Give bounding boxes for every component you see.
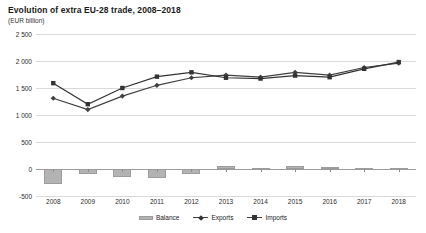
y-axis-labels: -50005001 0001 5002 0002 500	[0, 34, 32, 196]
imports-marker	[397, 60, 401, 64]
exports-marker	[154, 83, 159, 88]
bar-swatch-icon	[139, 216, 153, 220]
x-axis-tick-label: 2016	[322, 198, 336, 205]
x-axis-tick-label: 2018	[391, 198, 405, 205]
x-axis-tick-label: 2013	[219, 198, 233, 205]
imports-marker	[189, 70, 193, 74]
imports-marker	[293, 73, 297, 77]
legend-item-balance[interactable]: Balance	[139, 214, 180, 221]
legend-item-imports[interactable]: Imports	[247, 214, 287, 221]
imports-marker	[258, 76, 262, 80]
line-diamond-marker-icon	[193, 215, 208, 221]
x-axis-tick-label: 2017	[357, 198, 371, 205]
x-axis-labels: 2008200920102011201220132014201520162017…	[36, 198, 416, 212]
exports-marker	[51, 96, 56, 101]
imports-marker	[120, 86, 124, 90]
x-axis-tick	[399, 169, 400, 172]
imports-marker	[86, 102, 90, 106]
y-axis-tick-label: 1 000	[16, 112, 32, 119]
x-axis-tick	[88, 169, 89, 172]
exports-marker	[120, 94, 125, 99]
x-axis-tick-label: 2012	[184, 198, 198, 205]
y-axis-tick-label: 500	[21, 139, 32, 146]
x-axis-tick-label: 2011	[150, 198, 164, 205]
imports-marker	[224, 76, 228, 80]
imports-marker	[155, 74, 159, 78]
legend-label-balance: Balance	[156, 214, 180, 221]
x-axis-tick-label: 2009	[81, 198, 95, 205]
x-axis-tick	[157, 169, 158, 172]
legend-item-exports[interactable]: Exports	[193, 214, 233, 221]
legend-label-imports: Imports	[265, 214, 287, 221]
chart-container: Evolution of extra EU-28 trade, 2008–201…	[0, 0, 426, 233]
plot-area	[36, 34, 416, 196]
imports-marker	[51, 81, 55, 85]
x-axis-tick	[53, 169, 54, 172]
x-axis-tick	[295, 169, 296, 172]
line-square-marker-icon	[247, 215, 262, 221]
x-axis-tick	[330, 169, 331, 172]
chart-legend: Balance Exports Imports	[0, 214, 426, 221]
chart-subtitle-unit: (EUR billion)	[8, 17, 44, 24]
y-axis-tick-label: 2 000	[16, 58, 32, 65]
x-axis-tick	[122, 169, 123, 172]
x-axis-tick-label: 2014	[253, 198, 267, 205]
y-axis-tick-label: 2 500	[16, 31, 32, 38]
x-axis-tick	[364, 169, 365, 172]
imports-marker	[327, 75, 331, 79]
exports-marker	[189, 75, 194, 80]
gridline	[36, 196, 416, 197]
y-axis-tick-label: 0	[28, 166, 32, 173]
exports-line	[53, 63, 398, 109]
legend-label-exports: Exports	[211, 214, 233, 221]
x-axis-tick-label: 2015	[288, 198, 302, 205]
chart-title: Evolution of extra EU-28 trade, 2008–201…	[8, 5, 181, 15]
x-axis-tick-label: 2010	[115, 198, 129, 205]
imports-marker	[362, 67, 366, 71]
exports-marker	[85, 107, 90, 112]
imports-line	[53, 62, 398, 104]
x-axis-tick	[261, 169, 262, 172]
y-axis-tick-label: 1 500	[16, 85, 32, 92]
x-axis-tick	[191, 169, 192, 172]
x-axis-tick	[226, 169, 227, 172]
y-axis-tick-label: -500	[19, 193, 32, 200]
x-axis-tick-label: 2008	[46, 198, 60, 205]
